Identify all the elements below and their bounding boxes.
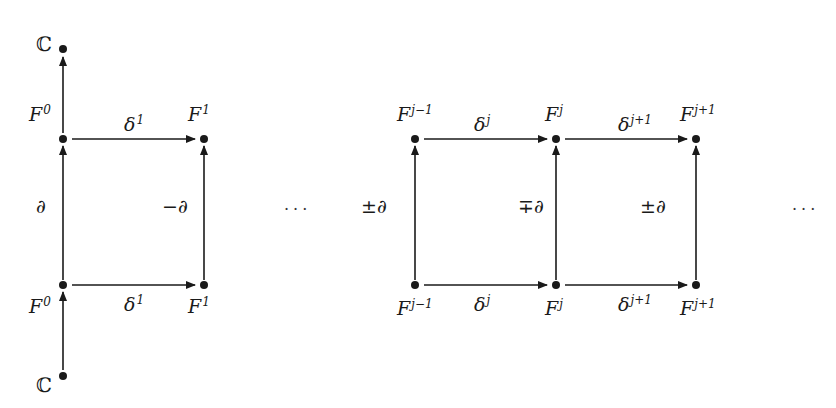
node-C-top	[59, 45, 67, 53]
label-Fj-top: Fj	[545, 104, 563, 124]
label-partial-left: ∂	[36, 197, 46, 216]
diagram-canvas	[0, 0, 836, 408]
ellipsis-middle: ···	[284, 200, 311, 219]
label-deltaj-top: δj	[474, 114, 490, 134]
label-Fj-1-top: Fj−1	[397, 104, 433, 124]
label-F1-bottom: F1	[188, 296, 210, 316]
node-Fj-top	[552, 135, 560, 143]
node-Fj-bottom	[552, 281, 560, 289]
node-F0-bottom	[59, 281, 67, 289]
label-deltaj1-top: δj+1	[618, 114, 652, 134]
label-delta1-bottom: δ1	[124, 294, 144, 314]
node-Fj+1-bottom	[692, 281, 700, 289]
label-F0-bottom: F0	[29, 296, 51, 316]
label-Fj-1-bottom: Fj−1	[397, 298, 433, 318]
label-delta1-top: δ1	[124, 114, 144, 134]
label-minus-partial: −∂	[162, 197, 188, 216]
node-F0-top	[59, 135, 67, 143]
node-Fj-1-top	[411, 135, 419, 143]
label-C-bottom: ℂ	[36, 375, 52, 395]
label-deltaj1-bottom: δj+1	[618, 294, 652, 314]
node-F1-top	[200, 135, 208, 143]
node-Fj-1-bottom	[411, 281, 419, 289]
label-Fj+1-top: Fj+1	[680, 104, 716, 124]
label-deltaj-bottom: δj	[474, 294, 490, 314]
node-C-bottom	[59, 372, 67, 380]
label-F1-top: F1	[188, 104, 210, 124]
label-F0-top: F0	[29, 104, 51, 124]
label-pm-partial-2: ±∂	[640, 197, 666, 216]
label-Fj+1-bottom: Fj+1	[680, 298, 716, 318]
node-F1-bottom	[200, 281, 208, 289]
ellipsis-right: ···	[792, 200, 819, 219]
label-mp-partial: ∓∂	[518, 197, 544, 216]
node-Fj+1-top	[692, 135, 700, 143]
label-pm-partial-1: ±∂	[361, 197, 387, 216]
label-C-top: ℂ	[36, 34, 52, 54]
label-Fj-bottom: Fj	[545, 298, 563, 318]
